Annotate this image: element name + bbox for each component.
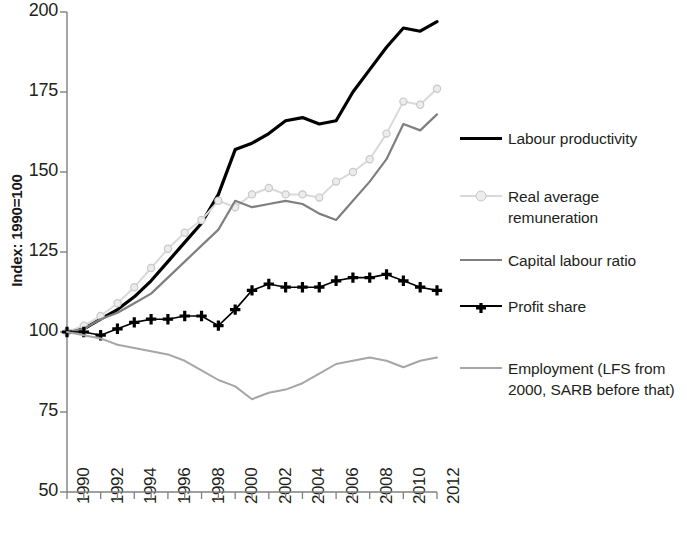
legend-item-label: Employment (LFS from 2000, SARB before t…	[508, 358, 675, 400]
series-marker	[349, 168, 356, 175]
series-marker	[163, 314, 173, 324]
series-marker	[148, 264, 155, 271]
series-marker	[314, 282, 324, 292]
series-marker	[280, 282, 290, 292]
legend-item-label: Labour productivity	[508, 128, 637, 150]
series-marker	[146, 314, 156, 324]
series-marker	[348, 272, 358, 282]
series-marker	[112, 324, 122, 334]
series-marker	[299, 191, 306, 198]
legend-line-sample	[460, 259, 502, 261]
series-marker	[248, 191, 255, 198]
legend-swatch	[458, 128, 504, 148]
series-marker	[366, 156, 373, 163]
legend-item-label: Real average remuneration	[508, 186, 599, 228]
legend-item-label: Profit share	[508, 296, 586, 318]
series-marker	[398, 276, 408, 286]
legend-line-sample	[460, 137, 502, 140]
series-5	[67, 332, 437, 399]
series-marker	[181, 229, 188, 236]
series-marker	[433, 85, 440, 92]
series-marker	[282, 191, 289, 198]
series-marker	[198, 216, 205, 223]
legend-circle-marker-icon	[476, 191, 487, 202]
series-marker	[415, 282, 425, 292]
legend-line-sample	[460, 367, 502, 369]
legend-swatch	[458, 186, 504, 206]
plot-area	[0, 0, 687, 549]
series-marker	[316, 194, 323, 201]
legend-item-5[interactable]: Employment (LFS from 2000, SARB before t…	[458, 358, 675, 400]
legend-item-1[interactable]: Labour productivity	[458, 128, 637, 150]
legend-plus-marker-icon	[475, 300, 487, 312]
series-marker	[333, 178, 340, 185]
series-marker	[180, 311, 190, 321]
series-marker	[381, 269, 391, 279]
series-marker	[297, 282, 307, 292]
series-2	[63, 85, 440, 335]
series-marker	[365, 272, 375, 282]
series-marker	[331, 276, 341, 286]
series-line	[67, 332, 437, 399]
legend-swatch	[458, 296, 504, 316]
series-marker	[383, 130, 390, 137]
series-marker	[215, 197, 222, 204]
series-marker	[129, 317, 139, 327]
series-marker	[196, 311, 206, 321]
legend-swatch	[458, 358, 504, 378]
legend-item-3[interactable]: Capital labour ratio	[458, 250, 636, 272]
series-marker	[264, 279, 274, 289]
legend-item-2[interactable]: Real average remuneration	[458, 186, 599, 228]
legend-item-4[interactable]: Profit share	[458, 296, 586, 318]
legend-swatch	[458, 250, 504, 270]
series-marker	[432, 285, 442, 295]
series-marker	[164, 245, 171, 252]
series-marker	[400, 98, 407, 105]
series-marker	[131, 284, 138, 291]
legend-item-label: Capital labour ratio	[508, 250, 636, 272]
series-marker	[114, 300, 121, 307]
figure: Index: 1990=100 2001751501251007550 1990…	[0, 0, 687, 549]
series-marker	[265, 184, 272, 191]
series-marker	[417, 101, 424, 108]
